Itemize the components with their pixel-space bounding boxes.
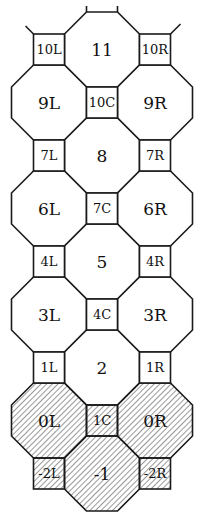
square-label: 4C (93, 307, 111, 322)
square-cell-1c: 1C (87, 405, 118, 436)
octagon-label: 8 (97, 146, 108, 166)
square-cell-10c: 10C (87, 87, 118, 118)
square-label: -2L (38, 466, 60, 481)
octagon-label: -1 (94, 464, 111, 484)
square-label: 4R (146, 254, 165, 269)
octagon-label: 3R (143, 305, 168, 325)
octagon-label: 9R (143, 93, 168, 113)
square-cell-10l: 10L (34, 34, 65, 65)
square-cell-7c: 7C (87, 193, 118, 224)
octagon-label: 0L (38, 411, 60, 431)
square-cell-4r: 4R (140, 246, 171, 277)
square-label: 1C (93, 413, 111, 428)
square-cell-minus-2r: -2R (140, 458, 171, 489)
square-cell-10r: 10R (140, 34, 171, 65)
square-label: 4L (41, 254, 58, 269)
square-cell-7r: 7R (140, 140, 171, 171)
continuation-line (26, 26, 34, 34)
octagon-cell-minus-1: -1 (65, 436, 140, 511)
octagon-label: 5 (97, 252, 108, 272)
square-cell-4c: 4C (87, 299, 118, 330)
square-label: 7C (93, 201, 111, 216)
octagon-label: 2 (97, 358, 108, 378)
square-cell-1l: 1L (34, 352, 65, 383)
octagon-label: 6R (143, 199, 168, 219)
square-label: 7R (146, 148, 165, 163)
square-label: -2R (144, 466, 168, 481)
square-cell-1r: 1R (140, 352, 171, 383)
octagon-square-diagram: 119L9R86L6R53L3R20L0R-1 10L10R10C7L7R7C4… (0, 0, 201, 516)
square-label: 10L (36, 42, 62, 57)
square-cell-7l: 7L (34, 140, 65, 171)
square-cell-minus-2l: -2L (34, 458, 65, 489)
continuation-line (171, 24, 181, 34)
square-label: 1R (146, 360, 165, 375)
octagon-label: 3L (38, 305, 60, 325)
square-label: 10C (89, 95, 116, 110)
square-label: 7L (41, 148, 58, 163)
square-label: 10R (142, 42, 170, 57)
octagon-label: 11 (91, 40, 113, 60)
square-label: 1L (41, 360, 58, 375)
square-cell-4l: 4L (34, 246, 65, 277)
octagon-label: 9L (38, 93, 60, 113)
octagon-label: 0R (143, 411, 168, 431)
octagon-label: 6L (38, 199, 60, 219)
